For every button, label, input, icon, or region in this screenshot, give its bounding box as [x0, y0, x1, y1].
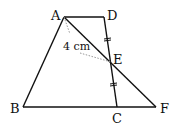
tick-mark-de-2 — [104, 40, 111, 41]
label-f: F — [160, 101, 169, 116]
geometry-diagram: A D E B C F 4 cm — [0, 0, 177, 127]
diagram-canvas: A D E B C F 4 cm — [0, 0, 177, 127]
label-b: B — [10, 101, 20, 116]
segment-ab — [23, 17, 64, 107]
tick-mark-ec-2 — [110, 85, 117, 86]
label-e: E — [113, 52, 123, 67]
tick-mark-ec — [110, 83, 117, 84]
tick-mark-de — [104, 38, 111, 39]
measurement-label: 4 cm — [63, 40, 91, 53]
label-d: D — [107, 8, 117, 23]
label-c: C — [112, 111, 122, 126]
label-a: A — [50, 8, 61, 23]
